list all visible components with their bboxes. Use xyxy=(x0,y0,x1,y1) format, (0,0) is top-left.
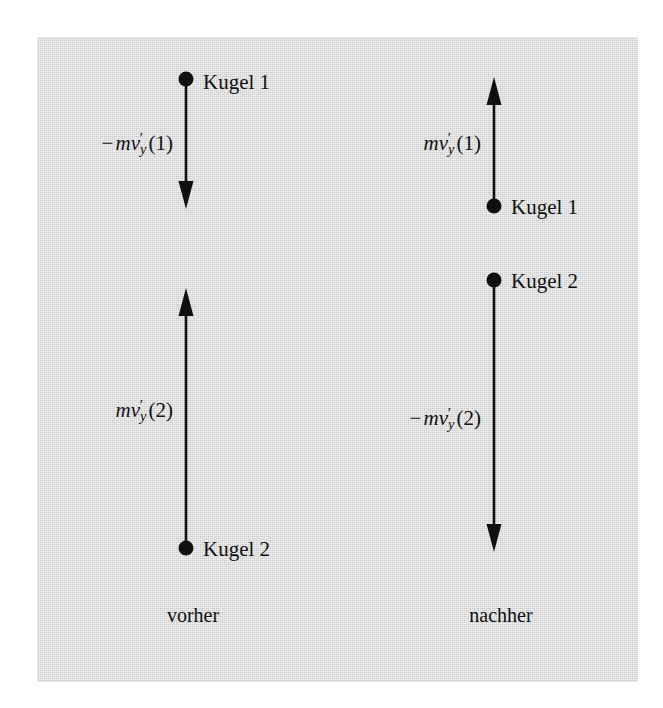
momentum-label-before-2: mv′y(2) xyxy=(113,398,173,424)
ball-label-after-1: Kugel 1 xyxy=(511,197,578,218)
arrowhead-down-after-2 xyxy=(487,524,502,552)
momentum-mass-after-1: m xyxy=(423,131,438,155)
momentum-subscript-before-1: y xyxy=(140,141,146,157)
momentum-mass-before-1: m xyxy=(115,131,130,155)
momentum-label-after-1: mv′y(1) xyxy=(421,131,481,157)
momentum-label-before-1: −mv′y(1) xyxy=(102,131,173,157)
momentum-arg-after-2: (2) xyxy=(457,406,482,430)
momentum-subscript-after-2: y xyxy=(448,416,454,432)
ball-label-before-2: Kugel 2 xyxy=(203,539,270,560)
caption-before: vorher xyxy=(167,605,219,625)
vector-before-ball-2 xyxy=(179,288,194,556)
momentum-arg-before-1: (1) xyxy=(149,131,174,155)
vector-before-ball-1 xyxy=(179,72,194,210)
caption-after: nachher xyxy=(469,605,532,625)
momentum-sign-after-2: − xyxy=(410,406,422,430)
momentum-subscript-before-2: y xyxy=(140,408,146,424)
momentum-subscript-after-1: y xyxy=(448,141,454,157)
momentum-arg-before-2: (2) xyxy=(149,398,174,422)
physics-figure-panel: Kugel 1 Kugel 2 Kugel 1 Kugel 2 −mv′y(1)… xyxy=(37,37,638,682)
momentum-arg-after-1: (1) xyxy=(457,131,482,155)
arrowhead-up-before-2 xyxy=(179,288,194,316)
ball-label-before-1: Kugel 1 xyxy=(203,72,270,93)
momentum-label-after-2: −mv′y(2) xyxy=(410,406,481,432)
arrowhead-down-before-1 xyxy=(179,181,194,209)
momentum-mass-before-2: m xyxy=(115,398,130,422)
vector-after-ball-2 xyxy=(487,273,502,553)
vector-after-ball-1 xyxy=(487,77,502,214)
arrowhead-up-after-1 xyxy=(487,77,502,105)
momentum-sign-before-1: − xyxy=(102,131,114,155)
momentum-mass-after-2: m xyxy=(423,406,438,430)
ball-label-after-2: Kugel 2 xyxy=(511,271,578,292)
